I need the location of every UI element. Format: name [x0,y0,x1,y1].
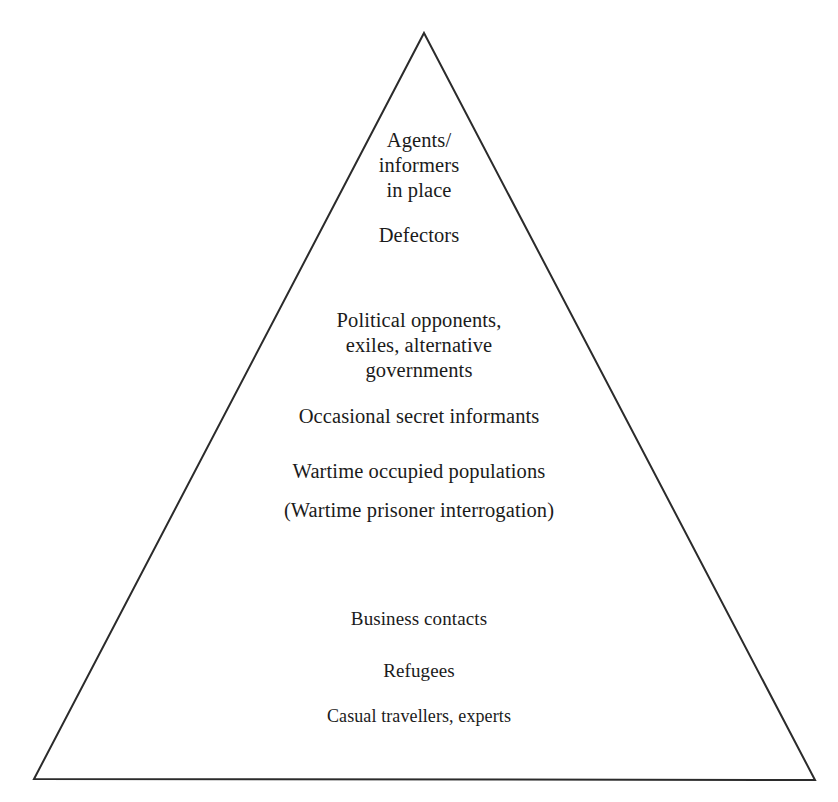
tier-label-wartime-occupied-populations: Wartime occupied populations [0,459,838,484]
tier-label-political-opponents: Political opponents, exiles, alternative… [0,308,838,383]
tier-label-defectors: Defectors [0,223,838,248]
tier-label-occasional-secret-informants: Occasional secret informants [0,404,838,429]
tier-label-refugees: Refugees [0,659,838,682]
tier-label-wartime-prisoner-interrogation: (Wartime prisoner interrogation) [0,498,838,523]
tier-label-business-contacts: Business contacts [0,607,838,630]
tier-label-agents-informers-in-place: Agents/ informers in place [0,128,838,203]
pyramid-diagram-canvas: Agents/ informers in place Defectors Pol… [0,0,838,802]
tier-label-casual-travellers-experts: Casual travellers, experts [0,706,838,728]
